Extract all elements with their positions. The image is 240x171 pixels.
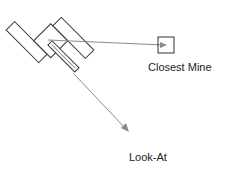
look-at-label: Look-At [129,151,167,163]
closest-mine-label: Closest Mine [148,61,212,73]
tank [6,0,94,84]
diagram-canvas [0,0,240,171]
mine-vector [48,40,167,48]
look-at-vector [74,74,129,132]
